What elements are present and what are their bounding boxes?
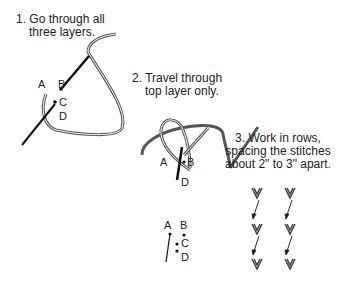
detail-needle [166,234,170,262]
step1-thread [43,34,123,135]
step3-title-line2: spacing the stitches [222,144,334,158]
step1-point-b: B [58,78,65,90]
detail-point-a: A [164,219,171,231]
step2-point-d: D [181,176,189,188]
step1-point-c: C [59,96,67,108]
step1-point-d: D [59,110,67,122]
step3-title-line3: about 2" to 3" apart. [222,157,334,171]
detail-point-d: D [181,251,189,263]
step1-title-line1: 1. Go through all [16,12,105,26]
step2-point-a: A [160,156,167,168]
step1-title-line2: three layers. [29,25,95,39]
step2-title-line1: 2. Travel through [132,71,222,85]
step2-point-b: B [187,156,194,168]
detail-point-c: C [181,237,189,249]
detail-point-b: B [180,219,187,231]
step1-point-a: A [38,78,45,90]
step3-title-line1: 3. Work in rows, [222,131,334,145]
step2-title-line2: top layer only. [145,84,219,98]
